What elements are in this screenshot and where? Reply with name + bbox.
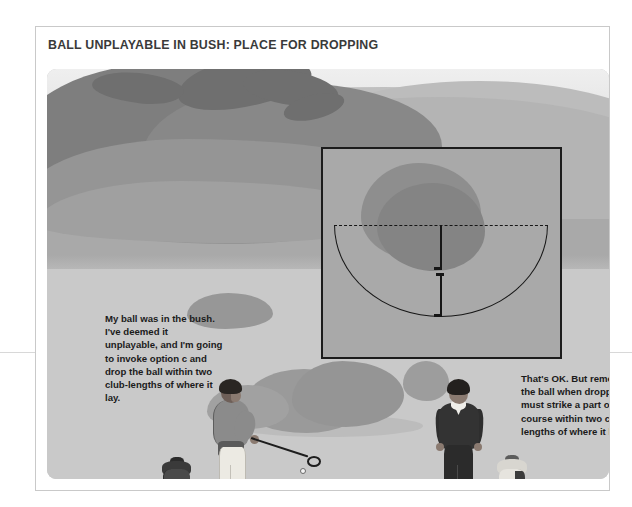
page-title: BALL UNPLAYABLE IN BUSH: PLACE FOR DROPP… — [48, 38, 378, 52]
inset-diagram — [321, 147, 562, 359]
foreground-bush-b — [292, 361, 404, 427]
right-golfer-leg-divider — [457, 465, 458, 479]
content-card: BALL UNPLAYABLE IN BUSH: PLACE FOR DROPP… — [35, 26, 610, 491]
left-golfer-speech: My ball was in the bush. I've deemed it … — [105, 312, 223, 404]
left-golfer-leg-divider — [230, 465, 231, 479]
radius-tick-upper — [434, 267, 442, 270]
radius-tick-lower — [434, 314, 442, 317]
right-golfer-hand-right — [474, 443, 482, 451]
right-bag-dark-panel — [515, 471, 525, 479]
page-root: BALL UNPLAYABLE IN BUSH: PLACE FOR DROPP… — [0, 0, 632, 507]
golf-ball — [300, 468, 306, 474]
left-golf-bag — [157, 461, 203, 479]
radius-line-upper — [440, 225, 442, 269]
right-golfer-hand-left — [436, 443, 444, 451]
right-golfer-legs — [444, 445, 473, 479]
right-golf-bag — [491, 459, 537, 479]
illustration-photo: My ball was in the bush. I've deemed it … — [47, 69, 609, 479]
right-golfer-hair — [447, 379, 470, 395]
right-golfer-speech: That's OK. But remember the ball when dr… — [521, 372, 609, 438]
right-golfer — [435, 381, 489, 479]
left-golfer-legs — [219, 447, 246, 479]
radius-line-lower — [440, 273, 442, 317]
golf-club-head — [307, 456, 321, 467]
left-bag-body — [163, 469, 190, 479]
